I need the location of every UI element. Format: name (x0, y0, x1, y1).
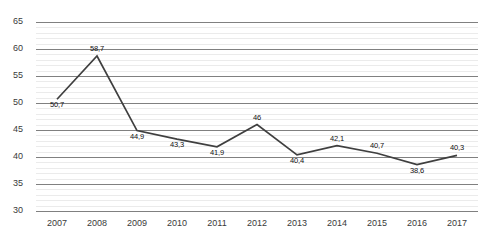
y-axis-tick-label: 40 (0, 152, 23, 161)
x-axis: 2007200820092010201120122013201420152016… (36, 216, 478, 234)
y-axis-tick-label: 50 (0, 98, 23, 107)
x-axis-tick-label: 2011 (195, 216, 239, 230)
x-axis-tick-label: 2009 (115, 216, 159, 230)
y-axis: 6560555045403530 (36, 22, 478, 211)
y-axis-tick-label: 45 (0, 125, 23, 134)
x-axis-tick-label: 2008 (75, 216, 119, 230)
y-axis-tick-label: 55 (0, 71, 23, 80)
x-axis-tick-label: 2015 (355, 216, 399, 230)
x-axis-tick-label: 2016 (395, 216, 439, 230)
x-axis-tick-label: 2012 (235, 216, 279, 230)
y-axis-tick-label: 60 (0, 44, 23, 53)
y-axis-tick-label: 35 (0, 179, 23, 188)
x-axis-tick-label: 2013 (275, 216, 319, 230)
y-axis-tick-label: 65 (0, 17, 23, 26)
y-axis-tick-label: 30 (0, 206, 23, 215)
x-axis-tick-label: 2010 (155, 216, 199, 230)
x-axis-line (36, 211, 478, 212)
line-chart: 50,758,744,943,341,94640,442,140,738,640… (0, 0, 486, 235)
x-axis-tick-label: 2017 (435, 216, 479, 230)
x-axis-tick-label: 2014 (315, 216, 359, 230)
x-axis-tick-label: 2007 (35, 216, 79, 230)
